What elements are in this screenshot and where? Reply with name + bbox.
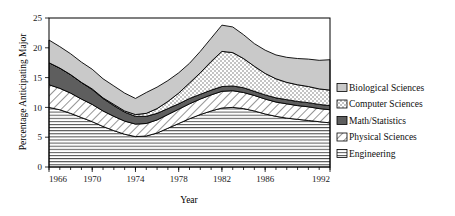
legend-label: Computer Sciences xyxy=(349,99,423,109)
chart-legend: Biological SciencesComputer SciencesMath… xyxy=(337,83,424,159)
x-tick-label: 1982 xyxy=(213,174,231,184)
legend-item: Math/Statistics xyxy=(337,116,406,126)
y-tick-label: 20 xyxy=(33,43,43,53)
y-tick-label: 25 xyxy=(33,13,43,23)
legend-swatch-horizontal-lines xyxy=(337,150,347,158)
x-axis-title: Year xyxy=(180,195,198,205)
legend-label: Math/Statistics xyxy=(349,116,406,126)
chart-container: 0510152025 1966197019741978198219861992 … xyxy=(0,0,455,216)
legend-swatch-dotted xyxy=(337,100,347,108)
legend-item: Engineering xyxy=(337,149,396,159)
plot-area xyxy=(49,18,330,167)
x-axis: 1966197019741978198219861992 xyxy=(49,167,330,184)
legend-label: Biological Sciences xyxy=(349,83,424,93)
legend-swatch-solid-dark xyxy=(337,117,347,125)
legend-label: Engineering xyxy=(349,149,396,159)
x-tick-label: 1978 xyxy=(170,174,189,184)
legend-label: Physical Sciences xyxy=(349,132,417,142)
x-tick-label: 1992 xyxy=(312,174,330,184)
legend-item: Computer Sciences xyxy=(337,99,423,109)
x-tick-label: 1986 xyxy=(256,174,275,184)
legend-item: Physical Sciences xyxy=(337,132,417,142)
stacked-area-chart: 0510152025 1966197019741978198219861992 … xyxy=(0,0,455,216)
x-tick-label: 1966 xyxy=(49,174,68,184)
legend-swatch-light-gray xyxy=(337,84,347,92)
x-tick-label: 1974 xyxy=(126,174,145,184)
y-tick-label: 15 xyxy=(33,73,43,83)
y-tick-label: 0 xyxy=(38,162,43,172)
legend-item: Biological Sciences xyxy=(337,83,424,93)
y-axis-title: Percentage Anticipating Major xyxy=(18,33,28,150)
y-tick-label: 10 xyxy=(33,103,43,113)
legend-swatch-diagonal-hatch xyxy=(337,133,347,141)
y-axis: 0510152025 xyxy=(33,13,49,172)
y-tick-label: 5 xyxy=(38,132,43,142)
x-tick-label: 1970 xyxy=(83,174,102,184)
